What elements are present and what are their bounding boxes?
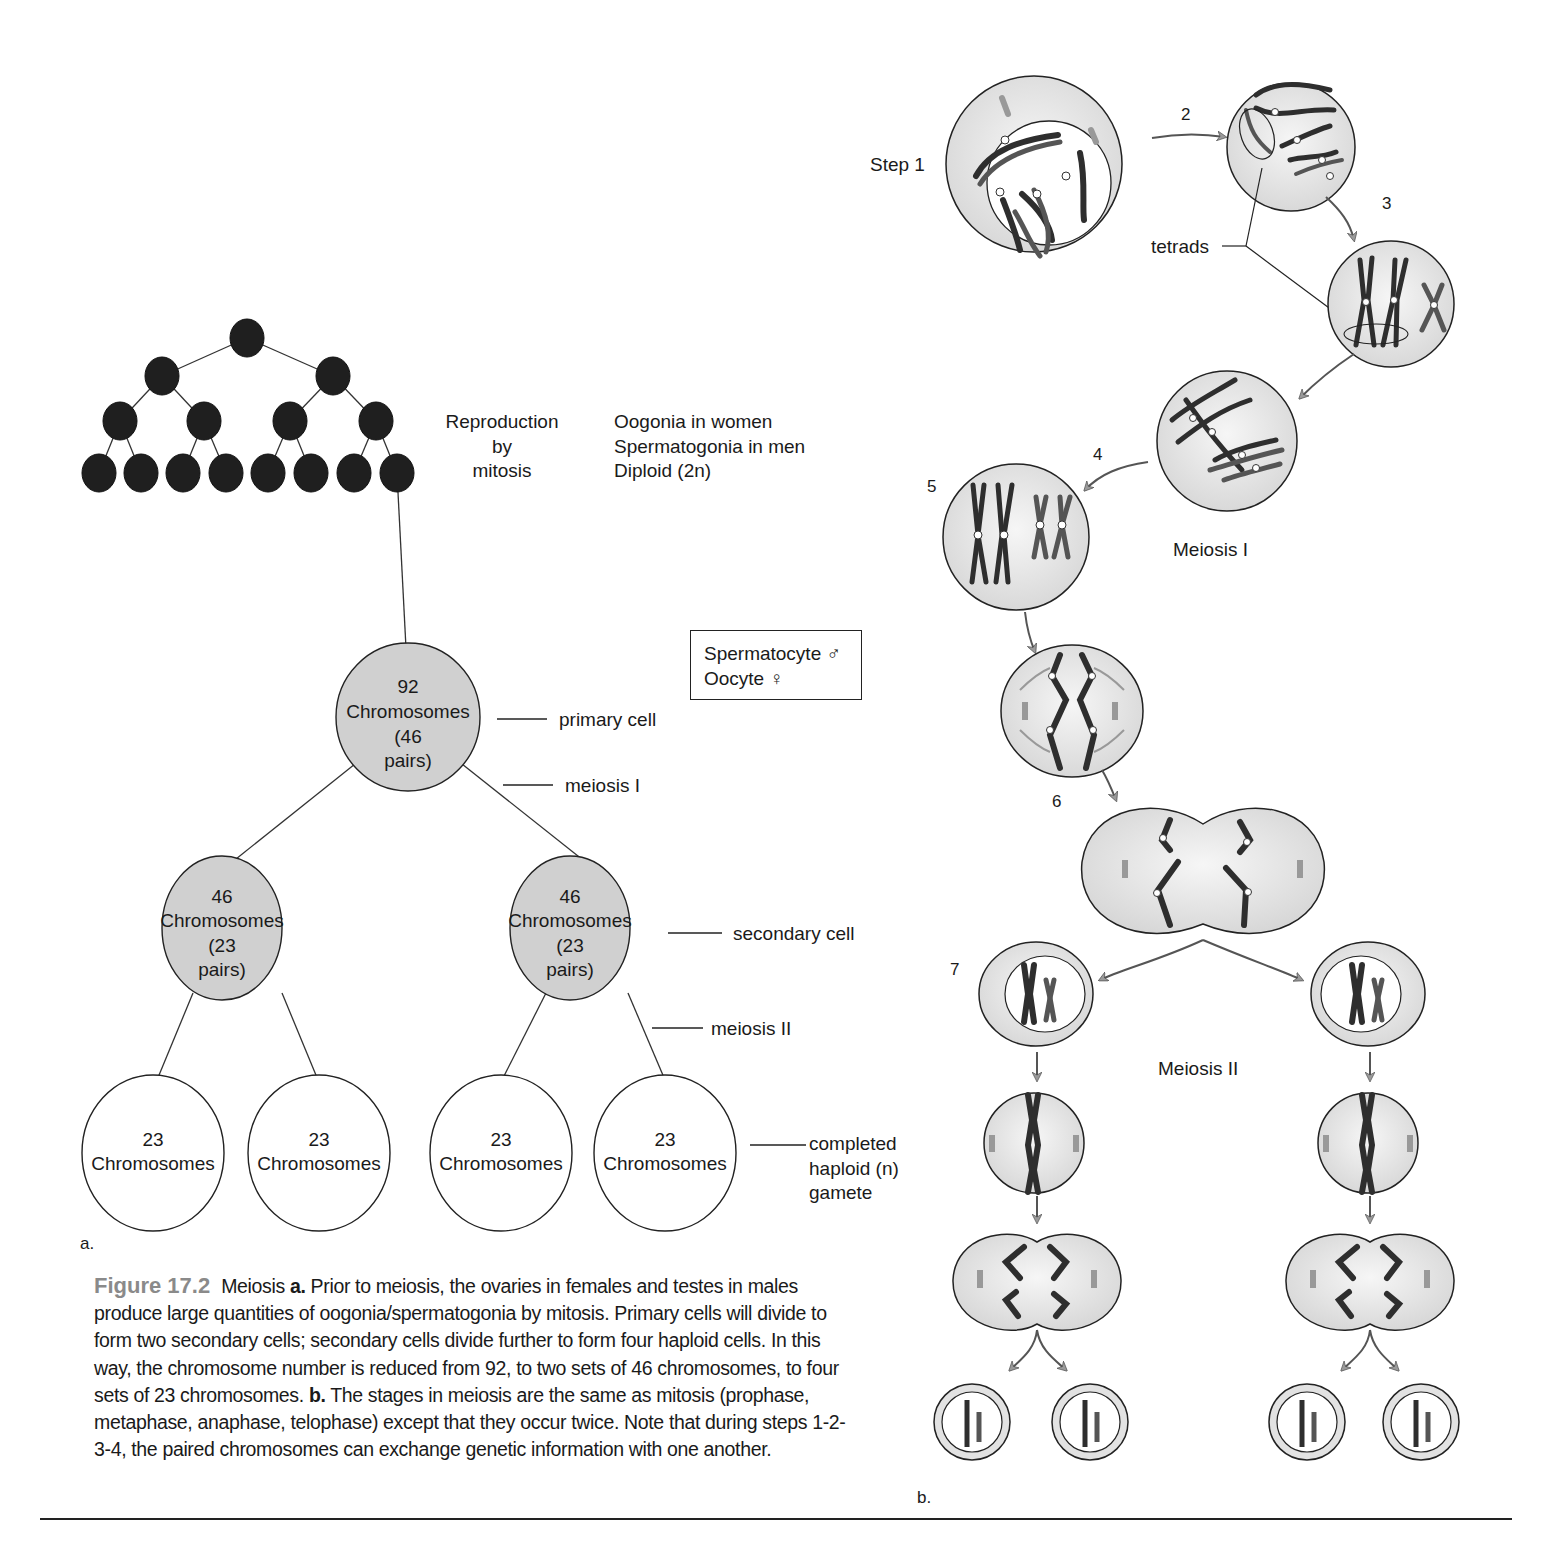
- svg-text:haploid (n): haploid (n): [809, 1158, 899, 1179]
- mitosis-tree: [99, 338, 406, 648]
- svg-text:mitosis: mitosis: [472, 460, 531, 481]
- svg-text:Reproduction: Reproduction: [445, 411, 558, 432]
- meiosis2-left-metaphase: [984, 1093, 1084, 1193]
- arrow-step-7-right: [1203, 940, 1302, 980]
- spermatocyte-label: Spermatocyte ♂: [704, 641, 861, 666]
- svg-text:Chromosomes: Chromosomes: [508, 910, 632, 931]
- meiosis-2-label: Meiosis II: [1158, 1058, 1238, 1079]
- svg-text:gamete: gamete: [809, 1182, 872, 1203]
- arrow-step-6: [1102, 770, 1116, 800]
- meiosis2-right-anaphase: [1286, 1234, 1454, 1330]
- svg-text:Spermatogonia in men: Spermatogonia in men: [614, 436, 805, 457]
- svg-text:completed: completed: [809, 1133, 897, 1154]
- step6-metaphase-cell: [1001, 645, 1143, 777]
- mitosis-description: Oogonia in women Spermatogonia in men Di…: [614, 411, 805, 481]
- gamete-1: 23 Chromosomes: [82, 1075, 224, 1231]
- step5-cell: [943, 464, 1089, 610]
- step3-cell: [1328, 241, 1454, 367]
- mitosis-cells: [82, 319, 414, 492]
- arrow-m2-right-3b: [1370, 1330, 1398, 1370]
- step-3-label: 3: [1382, 194, 1391, 213]
- gamete-4: 23 Chromosomes: [594, 1075, 736, 1231]
- arrow-step-3b: [1300, 354, 1354, 398]
- callout-meiosis-2: meiosis II: [711, 1018, 791, 1039]
- svg-text:pairs): pairs): [198, 959, 246, 980]
- step-7-label: 7: [950, 960, 959, 979]
- secondary-cell-left: 46 Chromosomes (23 pairs): [160, 856, 284, 1000]
- arrow-step-3: [1326, 197, 1354, 240]
- svg-text:Chromosomes: Chromosomes: [346, 701, 470, 722]
- arrow-step-2: [1152, 135, 1225, 139]
- step4-cell: [1157, 371, 1297, 511]
- meiosis2-left-prophase: [979, 942, 1093, 1046]
- primary-cell: 92 Chromosomes (46 pairs): [336, 643, 480, 791]
- svg-text:92: 92: [397, 676, 418, 697]
- step6-anaphase-cell: [1082, 808, 1325, 933]
- svg-text:pairs): pairs): [384, 750, 432, 771]
- gamete-3: 23 Chromosomes: [430, 1075, 572, 1231]
- gamete-cell-1: [934, 1384, 1010, 1460]
- tetrads-label: tetrads: [1151, 236, 1209, 257]
- svg-text:pairs): pairs): [546, 959, 594, 980]
- cell-type-legend: Spermatocyte ♂ Oocyte ♀: [690, 630, 862, 700]
- meiosis2-right-prophase: [1311, 942, 1425, 1046]
- svg-text:Chromosomes: Chromosomes: [603, 1153, 727, 1174]
- meiosis2-right-metaphase: [1318, 1093, 1418, 1193]
- step1-cell: [946, 76, 1122, 256]
- gamete-2: 23 Chromosomes: [248, 1075, 390, 1231]
- step-5-label: 5: [927, 477, 936, 496]
- svg-text:(23: (23: [208, 935, 235, 956]
- meiosis2-left-anaphase: [953, 1234, 1121, 1330]
- gamete-cell-2: [1052, 1384, 1128, 1460]
- step2-cell: [1227, 83, 1355, 211]
- arrow-m2-right-3a: [1342, 1330, 1370, 1370]
- svg-text:by: by: [492, 436, 513, 457]
- caption-part-b: b.: [309, 1384, 326, 1406]
- gamete-cell-4: [1383, 1384, 1459, 1460]
- figure-caption: Figure 17.2 Meiosis a. Prior to meiosis,…: [94, 1272, 854, 1463]
- meiosis-1-label: Meiosis I: [1173, 539, 1248, 560]
- arrow-step-7-left: [1100, 940, 1203, 980]
- bottom-rule: [40, 1518, 1512, 1520]
- figure-number: Figure 17.2: [94, 1273, 210, 1298]
- svg-text:23: 23: [142, 1129, 163, 1150]
- svg-text:46: 46: [559, 886, 580, 907]
- step-6-label: 6: [1052, 792, 1061, 811]
- caption-text-1: Meiosis: [216, 1275, 290, 1297]
- mitosis-label: Reproduction by mitosis: [445, 411, 558, 481]
- callout-meiosis-1: meiosis I: [565, 775, 640, 796]
- svg-text:23: 23: [654, 1129, 675, 1150]
- step-1-label: Step 1: [870, 154, 925, 175]
- arrow-step-4: [1085, 462, 1148, 490]
- svg-text:23: 23: [490, 1129, 511, 1150]
- svg-text:23: 23: [308, 1129, 329, 1150]
- callout-secondary-cell: secondary cell: [733, 923, 854, 944]
- svg-text:Diploid (2n): Diploid (2n): [614, 460, 711, 481]
- step-2-label: 2: [1181, 105, 1190, 124]
- arrow-m2-left-3a: [1010, 1330, 1037, 1370]
- callout-primary-cell: primary cell: [559, 709, 656, 730]
- svg-text:Oogonia in women: Oogonia in women: [614, 411, 772, 432]
- step-4-label: 4: [1093, 445, 1102, 464]
- svg-text:Chromosomes: Chromosomes: [439, 1153, 563, 1174]
- secondary-cell-right: 46 Chromosomes (23 pairs): [508, 856, 632, 1000]
- oocyte-label: Oocyte ♀: [704, 666, 861, 691]
- caption-part-a: a.: [290, 1275, 306, 1297]
- arrow-step-5: [1025, 612, 1035, 652]
- svg-text:Chromosomes: Chromosomes: [257, 1153, 381, 1174]
- callout-gamete: completed haploid (n) gamete: [809, 1133, 899, 1203]
- panel-b-label: b.: [917, 1488, 931, 1508]
- panel-a-label: a.: [80, 1234, 94, 1254]
- svg-text:(46: (46: [394, 726, 421, 747]
- gamete-cell-3: [1269, 1384, 1345, 1460]
- svg-text:Chromosomes: Chromosomes: [160, 910, 284, 931]
- svg-text:(23: (23: [556, 935, 583, 956]
- arrow-m2-left-3b: [1037, 1330, 1066, 1370]
- svg-text:Chromosomes: Chromosomes: [91, 1153, 215, 1174]
- svg-text:46: 46: [211, 886, 232, 907]
